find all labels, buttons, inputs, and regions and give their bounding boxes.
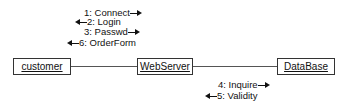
object-database[interactable]: DataBase	[277, 58, 335, 75]
object-customer-label: customer	[21, 61, 62, 72]
link-webserver-database	[193, 66, 277, 67]
object-database-label: DataBase	[284, 61, 328, 72]
object-customer[interactable]: customer	[13, 58, 71, 75]
object-webserver[interactable]: WebServer	[137, 58, 193, 75]
arrow-left-icon	[205, 93, 217, 99]
message-5: 5: Validity	[205, 91, 257, 101]
link-customer-webserver	[71, 66, 137, 67]
arrow-right-icon	[258, 82, 270, 88]
message-label: 6: OrderForm	[79, 38, 136, 48]
message-label: 5: Validity	[217, 91, 257, 101]
object-webserver-label: WebServer	[140, 61, 190, 72]
arrow-left-icon	[75, 19, 87, 25]
message-label: 3: Passwd	[84, 27, 128, 37]
arrow-right-icon	[128, 29, 140, 35]
arrow-right-icon	[130, 10, 142, 16]
message-4: 4: Inquire	[218, 80, 270, 90]
message-label: 4: Inquire	[218, 80, 258, 90]
arrow-left-icon	[67, 40, 79, 46]
message-3: 3: Passwd	[84, 27, 140, 37]
message-6: 6: OrderForm	[67, 38, 136, 48]
